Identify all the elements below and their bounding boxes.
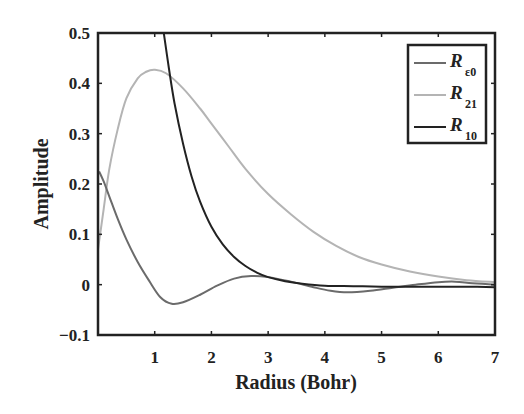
x-tick-label: 1: [150, 348, 159, 367]
legend-label: R: [449, 82, 463, 103]
x-axis-title: Radius (Bohr): [235, 371, 357, 394]
x-tick-label: 2: [207, 348, 216, 367]
legend-label-subscript: 21: [465, 97, 477, 111]
x-tick-label: 4: [321, 348, 330, 367]
y-tick-label: 0.4: [69, 74, 91, 93]
legend-label: R: [449, 114, 463, 135]
x-tick-label: 3: [264, 348, 273, 367]
series-line-ε0: [99, 171, 495, 304]
y-tick-label: 0: [82, 276, 91, 295]
y-axis-title: Amplitude: [30, 138, 53, 229]
legend-label-subscript: ε0: [465, 65, 476, 79]
x-tick-label: 6: [434, 348, 443, 367]
x-axis-tick-labels: 1234567: [150, 348, 499, 367]
y-axis-tick-labels: −0.100.10.20.30.40.5: [59, 24, 90, 345]
legend: Rε0R21R10: [408, 45, 486, 143]
x-tick-label: 5: [377, 348, 386, 367]
legend-label-subscript: 10: [465, 129, 477, 143]
line-chart: 1234567 −0.100.10.20.30.40.5 Radius (Boh…: [0, 0, 524, 414]
legend-label: R: [449, 50, 463, 71]
y-tick-label: 0.2: [69, 175, 90, 194]
x-tick-label: 7: [491, 348, 500, 367]
y-tick-label: 0.5: [69, 24, 90, 43]
y-tick-label: 0.1: [69, 225, 90, 244]
y-tick-label: −0.1: [59, 326, 90, 345]
y-tick-label: 0.3: [69, 125, 90, 144]
